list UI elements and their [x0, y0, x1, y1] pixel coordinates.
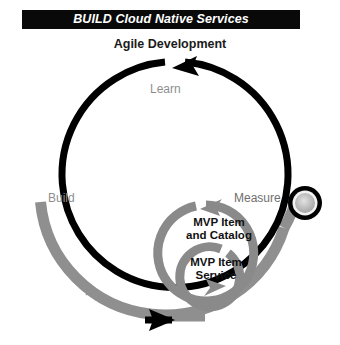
mvp-outer-label-line1: MVP Item — [177, 216, 261, 229]
stage-label-measure: Measure — [234, 192, 281, 205]
measure-node-group[interactable] — [288, 186, 322, 220]
stage-label-build: Build — [48, 192, 75, 205]
devops-arc-group — [41, 196, 298, 316]
mvp-inner-label: MVP Item Service — [180, 256, 252, 282]
mvp-outer-label-line2: and Catalog — [177, 229, 261, 242]
mvp-inner-label-line2: Service — [180, 269, 252, 282]
measure-node-core — [295, 193, 315, 213]
cycle-diagram-svg — [0, 0, 340, 345]
mvp-inner-label-line1: MVP Item — [180, 256, 252, 269]
mvp-outer-label: MVP Item and Catalog — [177, 216, 261, 242]
diagram-canvas: BUILD Cloud Native Services Agile Develo… — [0, 0, 340, 345]
stage-label-learn: Learn — [150, 83, 181, 96]
